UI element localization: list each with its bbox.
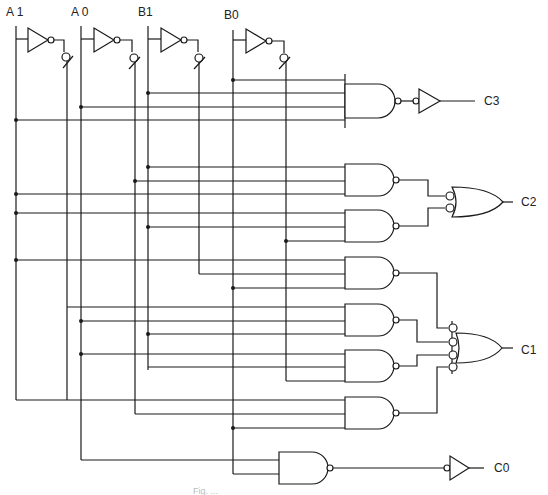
nand-gate-c1c <box>79 350 399 382</box>
nand-gate-c3 <box>14 74 475 128</box>
nand-gate-c1a <box>14 257 399 290</box>
inverter-a1 <box>16 28 73 400</box>
output-label-c2: C2 <box>521 195 537 209</box>
nand-gate-c2a <box>14 164 399 196</box>
output-label-c1: C1 <box>521 343 537 357</box>
multiplier-schematic: A 1 A 0 B1 B0 <box>0 0 548 495</box>
figure-caption: Fig. ... <box>193 486 218 495</box>
output-label-c0: C0 <box>494 461 510 475</box>
input-label-b0: B0 <box>224 8 239 22</box>
or-gate-c1 <box>399 273 513 413</box>
output-label-c3: C3 <box>484 94 500 108</box>
inverter-b0 <box>233 29 290 381</box>
input-label-a1: A 1 <box>6 5 24 19</box>
nand-gate-c1d <box>16 397 399 430</box>
nand-gate-c0 <box>81 452 484 484</box>
nand-gate-c2b <box>14 210 399 243</box>
input-label-a0: A 0 <box>71 5 89 19</box>
input-label-b1: B1 <box>138 5 153 19</box>
inverter-a0 <box>81 28 140 414</box>
or-gate-c2 <box>399 180 513 226</box>
inverter-b1 <box>148 28 205 274</box>
input-inverters <box>16 28 290 414</box>
